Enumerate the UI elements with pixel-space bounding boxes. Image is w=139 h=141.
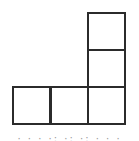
grid-cell-r1-c2 — [87, 49, 126, 88]
grid-cell-r2-c0 — [12, 86, 51, 125]
grid-cell-r0-c2 — [87, 12, 126, 51]
diagram-canvas: · · · ·: ·: ·: · · · — [0, 0, 139, 141]
clipped-caption-text: · · · ·: ·: ·: · · · — [0, 134, 139, 141]
grid-cell-r2-c2 — [87, 86, 126, 125]
grid-cell-r2-c1 — [50, 86, 89, 125]
